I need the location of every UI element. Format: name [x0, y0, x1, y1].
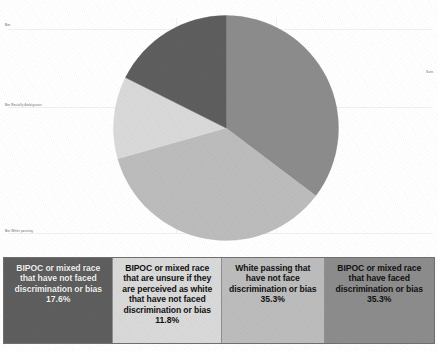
legend-value-1: 17.6%: [46, 294, 70, 305]
legend-cell-3[interactable]: White passing that have not face discrim…: [222, 258, 325, 343]
legend-label-4: BIPOC or mixed race that have faced disc…: [329, 263, 430, 294]
legend-value-2: 11.8%: [155, 315, 179, 326]
micro-label-top-right: Sum: [426, 71, 433, 75]
chart-canvas: Bar Bar Racially Ambiguous Bar White pas…: [0, 0, 438, 351]
legend-table: BIPOC or mixed race that have not faced …: [3, 257, 435, 344]
micro-label-top-left: Bar: [5, 24, 10, 28]
legend-label-2: BIPOC or mixed race that are unsure if t…: [117, 263, 217, 315]
legend-cell-1[interactable]: BIPOC or mixed race that have not faced …: [4, 258, 113, 343]
legend-value-4: 35.3%: [367, 294, 391, 305]
pie-chart: [113, 15, 339, 241]
legend-cell-2[interactable]: BIPOC or mixed race that are unsure if t…: [113, 258, 222, 343]
legend-value-3: 35.3%: [261, 294, 285, 305]
micro-label-mid-left: Bar Racially Ambiguous: [5, 104, 42, 108]
legend-label-3: White passing that have not face discrim…: [226, 263, 320, 294]
pie-slice-group: [113, 16, 338, 241]
pie-chart-svg: [113, 15, 339, 241]
legend-cell-4[interactable]: BIPOC or mixed race that have faced disc…: [325, 258, 434, 343]
legend-label-1: BIPOC or mixed race that have not faced …: [8, 263, 108, 294]
micro-label-bottom-left: Bar White passing: [5, 230, 33, 234]
